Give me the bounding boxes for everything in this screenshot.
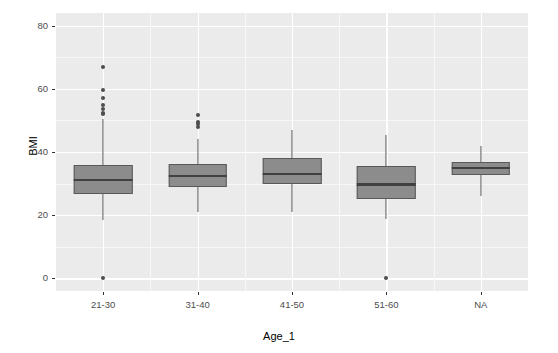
whisker-lower — [291, 184, 292, 212]
outlier-point — [196, 113, 200, 117]
outlier-point — [101, 96, 105, 100]
plot-panel — [56, 13, 528, 291]
whisker-upper — [197, 139, 198, 165]
whisker-lower — [480, 175, 481, 196]
x-tick-mark — [103, 292, 104, 295]
y-tick-label: 0 — [14, 272, 48, 283]
whisker-lower — [386, 199, 387, 219]
outlier-point — [101, 88, 105, 92]
x-tick-mark — [292, 292, 293, 295]
median-line — [263, 173, 322, 175]
x-tick-mark — [386, 292, 387, 295]
x-axis-title: Age_1 — [0, 330, 558, 342]
x-tick-mark — [198, 292, 199, 295]
box-group-21-30 — [74, 13, 133, 291]
outlier-point — [196, 125, 200, 129]
y-tick-mark — [52, 26, 55, 27]
x-tick-label: 41-50 — [280, 299, 304, 310]
x-tick-mark — [481, 292, 482, 295]
y-tick-mark — [52, 152, 55, 153]
box-group-51-60 — [357, 13, 416, 291]
boxplot-figure: 020406080 21-3031-4041-5051-60NA BMI Age… — [0, 0, 558, 353]
y-tick-label: 80 — [14, 20, 48, 31]
box-group-41-50 — [263, 13, 322, 291]
whisker-lower — [197, 187, 198, 212]
whisker-lower — [103, 194, 104, 220]
x-tick-label: NA — [474, 299, 487, 310]
outlier-point — [101, 276, 105, 280]
x-tick-label: 51-60 — [374, 299, 398, 310]
outlier-point — [101, 103, 105, 107]
box-group-na — [452, 13, 511, 291]
y-axis-title: BMI — [27, 101, 39, 191]
y-tick-mark — [52, 89, 55, 90]
median-line — [357, 183, 416, 185]
gridline-minor-x — [245, 13, 246, 291]
median-line — [168, 175, 227, 177]
outlier-point — [384, 276, 388, 280]
whisker-upper — [386, 135, 387, 167]
whisker-upper — [480, 146, 481, 162]
y-tick-mark — [52, 278, 55, 279]
outlier-point — [101, 65, 105, 69]
median-line — [74, 179, 133, 181]
gridline-minor-x — [339, 13, 340, 291]
x-tick-label: 21-30 — [91, 299, 115, 310]
y-tick-label: 60 — [14, 83, 48, 94]
outlier-point — [101, 112, 105, 116]
x-tick-label: 31-40 — [185, 299, 209, 310]
y-tick-label: 20 — [14, 209, 48, 220]
gridline-minor-x — [434, 13, 435, 291]
whisker-upper — [103, 119, 104, 164]
median-line — [452, 167, 511, 169]
whisker-upper — [291, 130, 292, 158]
box-iqr — [263, 158, 322, 183]
y-tick-mark — [52, 215, 55, 216]
gridline-minor-x — [150, 13, 151, 291]
box-group-31-40 — [168, 13, 227, 291]
